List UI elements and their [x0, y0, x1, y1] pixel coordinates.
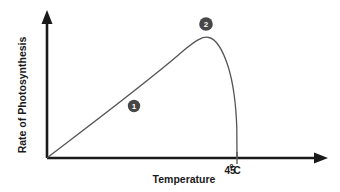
x-axis-tick-unit: C	[233, 165, 240, 176]
chart-canvas: 1 2 Rate of Photosynthesis Temperature 4…	[0, 0, 340, 192]
marker-1: 1	[128, 100, 140, 112]
x-axis-tick-label-group: 45 o C	[224, 162, 240, 176]
y-axis-arrow-icon	[42, 10, 53, 24]
x-axis	[47, 153, 328, 164]
photosynthesis-temperature-figure: 1 2 Rate of Photosynthesis Temperature 4…	[0, 0, 340, 192]
x-axis-title: Temperature	[153, 173, 216, 185]
marker-2-label: 2	[204, 20, 209, 29]
x-axis-arrow-icon	[314, 153, 328, 164]
marker-2: 2	[199, 17, 213, 31]
y-axis	[42, 10, 53, 158]
y-axis-title: Rate of Photosynthesis	[16, 36, 28, 153]
photosynthesis-rate-curve	[48, 37, 238, 158]
curve-line	[48, 37, 238, 158]
marker-1-label: 1	[132, 102, 137, 111]
